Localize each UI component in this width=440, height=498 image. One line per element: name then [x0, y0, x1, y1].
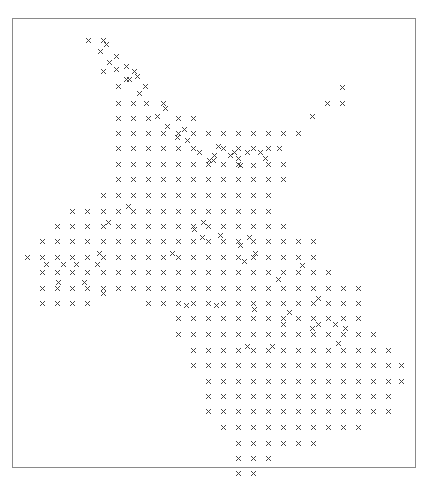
scatter-point-x-marker	[220, 161, 227, 168]
scatter-point-x-marker	[235, 285, 242, 292]
scatter-point-x-marker	[340, 300, 347, 307]
scatter-point-x-marker	[280, 300, 287, 307]
scatter-point-x-marker	[315, 321, 322, 328]
scatter-point-x-marker	[325, 300, 332, 307]
scatter-point-x-marker	[142, 83, 149, 90]
scatter-point-x-marker	[106, 59, 113, 66]
scatter-point-x-marker	[310, 331, 317, 338]
scatter-point-x-marker	[199, 234, 206, 241]
scatter-point-x-marker	[130, 115, 137, 122]
scatter-point-x-marker	[190, 192, 197, 199]
scatter-point-x-marker	[280, 440, 287, 447]
scatter-point-x-marker	[54, 300, 61, 307]
scatter-point-x-marker	[73, 261, 80, 268]
scatter-point-x-marker	[205, 269, 212, 276]
scatter-point-x-marker	[310, 393, 317, 400]
scatter-point-x-marker	[340, 408, 347, 415]
scatter-point-x-marker	[310, 424, 317, 431]
scatter-point-x-marker	[130, 176, 137, 183]
scatter-point-x-marker	[235, 130, 242, 137]
scatter-point-x-marker	[130, 100, 137, 107]
scatter-point-x-marker	[39, 285, 46, 292]
scatter-point-x-marker	[196, 149, 203, 156]
scatter-point-x-marker	[310, 378, 317, 385]
scatter-point-x-marker	[130, 192, 137, 199]
scatter-point-x-marker	[39, 254, 46, 261]
scatter-point-x-marker	[126, 76, 133, 83]
scatter-point-x-marker	[265, 378, 272, 385]
scatter-point-x-marker	[220, 192, 227, 199]
scatter-point-x-marker	[190, 315, 197, 322]
scatter-point-x-marker	[280, 161, 287, 168]
scatter-point-x-marker	[205, 254, 212, 261]
scatter-point-x-marker	[205, 378, 212, 385]
scatter-point-x-marker	[54, 285, 61, 292]
scatter-point-x-marker	[200, 219, 207, 226]
scatter-point-x-marker	[220, 176, 227, 183]
scatter-point-x-marker	[235, 315, 242, 322]
scatter-point-x-marker	[370, 331, 377, 338]
scatter-point-x-marker	[220, 223, 227, 230]
scatter-point-x-marker	[115, 145, 122, 152]
scatter-point-x-marker	[295, 331, 302, 338]
scatter-point-x-marker	[250, 130, 257, 137]
scatter-point-x-marker	[69, 254, 76, 261]
scatter-point-x-marker	[205, 331, 212, 338]
scatter-point-x-marker	[96, 250, 103, 257]
scatter-point-x-marker	[115, 254, 122, 261]
scatter-point-x-marker	[69, 269, 76, 276]
scatter-point-x-marker	[295, 424, 302, 431]
scatter-point-x-marker	[54, 254, 61, 261]
scatter-point-x-marker	[355, 408, 362, 415]
scatter-point-x-marker	[355, 347, 362, 354]
scatter-point-x-marker	[265, 285, 272, 292]
scatter-point-x-marker	[145, 269, 152, 276]
scatter-point-x-marker	[355, 424, 362, 431]
scatter-point-x-marker	[205, 362, 212, 369]
scatter-point-x-marker	[310, 440, 317, 447]
scatter-point-x-marker	[325, 269, 332, 276]
scatter-point-x-marker	[280, 424, 287, 431]
scatter-point-x-marker	[205, 408, 212, 415]
scatter-point-x-marker	[325, 362, 332, 369]
scatter-point-x-marker	[325, 393, 332, 400]
scatter-point-x-marker	[265, 440, 272, 447]
scatter-point-x-marker	[237, 242, 244, 249]
scatter-point-x-marker	[220, 145, 227, 152]
scatter-point-x-marker	[69, 208, 76, 215]
scatter-point-x-marker	[250, 315, 257, 322]
scatter-point-x-marker	[205, 393, 212, 400]
scatter-point-x-marker	[250, 408, 257, 415]
scatter-point-x-marker	[252, 250, 259, 257]
scatter-point-x-marker	[220, 285, 227, 292]
scatter-point-x-marker	[115, 83, 122, 90]
scatter-point-x-marker	[265, 331, 272, 338]
scatter-point-x-marker	[235, 455, 242, 462]
scatter-point-x-marker	[115, 176, 122, 183]
scatter-point-x-marker	[280, 254, 287, 261]
scatter-point-x-marker	[130, 161, 137, 168]
scatter-point-x-marker	[84, 208, 91, 215]
scatter-point-x-marker	[60, 261, 67, 268]
scatter-point-x-marker	[205, 176, 212, 183]
scatter-point-x-marker	[241, 258, 248, 265]
scatter-point-x-marker	[84, 285, 91, 292]
scatter-point-x-marker	[250, 269, 257, 276]
scatter-point-x-marker	[235, 393, 242, 400]
scatter-point-x-marker	[220, 378, 227, 385]
scatter-point-x-marker	[160, 300, 167, 307]
scatter-point-x-marker	[280, 130, 287, 137]
scatter-point-x-marker	[295, 300, 302, 307]
scatter-point-x-marker	[130, 238, 137, 245]
scatter-point-x-marker	[184, 137, 191, 144]
scatter-point-x-marker	[130, 130, 137, 137]
scatter-point-x-marker	[235, 408, 242, 415]
scatter-point-x-marker	[265, 238, 272, 245]
scatter-point-x-marker	[130, 269, 137, 276]
scatter-point-x-marker	[220, 424, 227, 431]
scatter-point-x-marker	[43, 261, 50, 268]
scatter-point-x-marker	[175, 192, 182, 199]
scatter-point-x-marker	[250, 393, 257, 400]
scatter-point-x-marker	[335, 340, 342, 347]
scatter-point-x-marker	[205, 238, 212, 245]
